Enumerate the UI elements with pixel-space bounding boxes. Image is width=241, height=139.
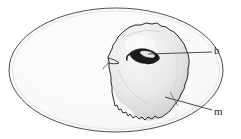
label-membrane: m <box>214 106 223 117</box>
figure-container: b m <box>0 0 241 139</box>
label-blastoderm: b <box>214 45 220 56</box>
figure-drawing <box>0 0 241 139</box>
